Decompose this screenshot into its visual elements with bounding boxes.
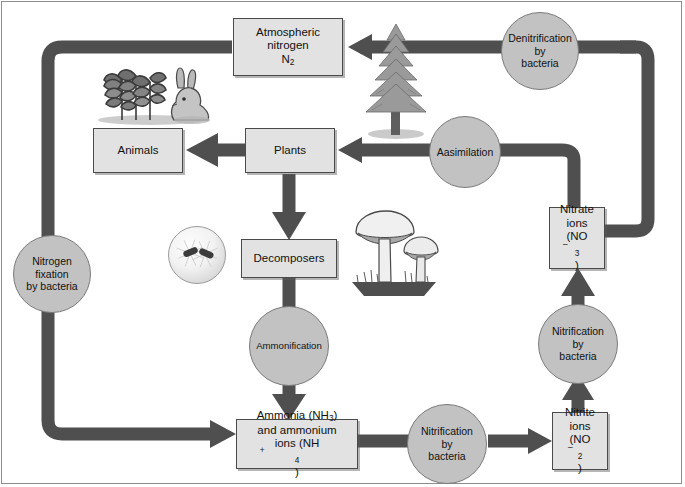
box-atmospheric-nitrogen[interactable]: Atmospheric nitrogen N2 (233, 18, 343, 76)
decomposers-label: Decomposers (251, 252, 328, 266)
box-nitrate-ions[interactable]: Nitrate ions (NO3–) (549, 207, 605, 269)
nitrification-bottom-line3: bacteria (418, 450, 476, 462)
nitrate-formula: (NO3–) (557, 230, 597, 272)
circle-ammonification[interactable]: Ammonification (249, 306, 329, 386)
atmospheric-nitrogen-line2: nitrogen (253, 39, 323, 53)
box-ammonia-ammonium[interactable]: Ammonia (NH3) and ammonium ions (NH4+) (236, 419, 358, 469)
ammonia-line3: ions (NH4+) (254, 437, 341, 479)
mushrooms-illustration (344, 208, 444, 300)
arrow-plants-to-decomposers (272, 174, 306, 240)
rabbit-icon (172, 68, 210, 124)
nitrate-line2: ions (557, 217, 597, 231)
animals-label: Animals (115, 144, 162, 158)
bacteria-micrograph-illustration (168, 226, 226, 284)
nitrite-line2: ions (562, 420, 598, 434)
circle-denitrification-by-bacteria[interactable]: Denitrification by bacteria (501, 12, 579, 90)
small-mushroom (404, 237, 438, 282)
nitrogen-fixation-line3: by bacteria (23, 280, 80, 292)
ammonia-line1: Ammonia (NH3) (254, 409, 341, 424)
nitrogen-cycle-figure: .ar{fill:none;stroke:#4f4f4f;stroke-widt… (0, 0, 685, 487)
circle-nitrogen-fixation-by-bacteria[interactable]: Nitrogen fixation by bacteria (13, 235, 91, 313)
denitrification-line1: Denitrification (505, 32, 575, 44)
circle-nitrification-by-bacteria-bottom[interactable]: Nitrification by bacteria (407, 404, 487, 484)
nitrification-bottom-line1: Nitrification (418, 425, 476, 437)
nitrification-bottom-line2: by (418, 438, 476, 450)
circle-assimilation[interactable]: Aasimilation (429, 116, 501, 188)
denitrification-line2: by (505, 45, 575, 57)
nitrification-right-line3: bacteria (549, 350, 607, 362)
nitrification-right-line2: by (549, 338, 607, 350)
ammonification-label: Ammonification (253, 340, 325, 351)
box-nitrite-ions[interactable]: Nitrite ions (NO2–) (552, 412, 608, 470)
plants-label: Plants (271, 144, 309, 158)
nitrogen-fixation-line2: fixation (23, 268, 80, 280)
plants-and-rabbit-illustration (92, 58, 210, 128)
nitrification-right-line1: Nitrification (549, 325, 607, 337)
circle-nitrification-by-bacteria-right[interactable]: Nitrification by bacteria (538, 304, 618, 384)
box-plants[interactable]: Plants (245, 128, 335, 173)
nitrate-line1: Nitrate (557, 203, 597, 217)
denitrification-line3: bacteria (505, 57, 575, 69)
arrow-plants-to-animals (186, 133, 246, 167)
assimilation-label: Aasimilation (434, 146, 497, 158)
atmospheric-nitrogen-formula: N2 (253, 53, 323, 68)
box-decomposers[interactable]: Decomposers (241, 239, 337, 278)
ammonia-line2: and ammonium (254, 424, 341, 438)
atmospheric-nitrogen-line1: Atmospheric (253, 26, 323, 40)
box-animals[interactable]: Animals (93, 128, 183, 173)
nitrite-line1: Nitrite (562, 406, 598, 420)
conifer-tree-illustration (360, 22, 432, 142)
nitrogen-fixation-line1: Nitrogen (23, 255, 80, 267)
nitrite-formula: (NO2–) (562, 433, 598, 475)
arrow-nitrate-up-right-trunk (604, 47, 648, 231)
